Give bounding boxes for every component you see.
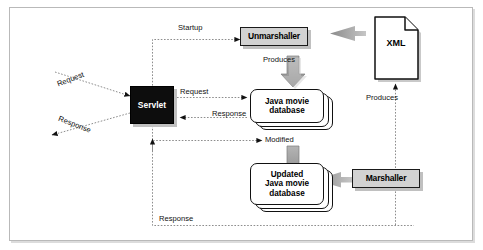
diagram-canvas: Unmarshaller Marshaller XML Servlet Java… [0, 0, 483, 250]
label-produces-top: Produces [263, 56, 295, 64]
label-response-mid: Response [212, 110, 246, 118]
label-response-bottom: Response [159, 215, 193, 223]
xml-document[interactable]: XML [366, 12, 426, 84]
marshaller-label: Marshaller [366, 174, 407, 183]
servlet-box[interactable]: Servlet [130, 86, 174, 124]
xml-label: XML [366, 38, 426, 48]
servlet-label: Servlet [138, 100, 166, 110]
updated-db-layer-front: UpdatedJava moviedatabase [250, 163, 324, 205]
unmarshaller-box[interactable]: Unmarshaller [240, 27, 308, 46]
java-movie-database-label: Java moviedatabase [265, 97, 309, 116]
db-layer-front: Java moviedatabase [250, 89, 324, 123]
label-request-mid: Request [180, 88, 208, 96]
label-startup: Startup [178, 24, 202, 32]
label-produces-right: Produces [366, 94, 398, 102]
updated-java-movie-database-stack[interactable]: UpdatedJava moviedatabase [249, 162, 337, 218]
updated-java-movie-database-label: UpdatedJava moviedatabase [265, 170, 309, 198]
xml-doc-icon [366, 12, 426, 84]
marshaller-box[interactable]: Marshaller [352, 169, 420, 188]
java-movie-database-stack[interactable]: Java moviedatabase [249, 88, 337, 136]
label-modified: Modified [265, 136, 294, 144]
unmarshaller-label: Unmarshaller [248, 32, 300, 41]
